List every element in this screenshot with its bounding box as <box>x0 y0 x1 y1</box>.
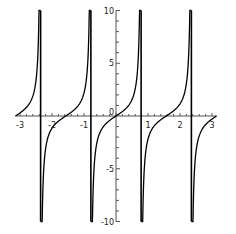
origin-label: 0 <box>109 108 114 117</box>
tan-branch <box>15 11 40 117</box>
y-tick-label: 10 <box>104 7 114 16</box>
x-tick-label: 2 <box>177 121 182 130</box>
tan-chart: -3-2-11230-10-5510 <box>0 0 236 234</box>
x-tick-label: 1 <box>145 121 150 130</box>
y-tick-label: -5 <box>106 165 114 174</box>
y-tick-label: 5 <box>109 59 114 68</box>
x-tick-label: -2 <box>48 121 56 130</box>
tan-branch <box>191 116 216 222</box>
x-tick-label: -1 <box>80 121 88 130</box>
y-tick-label: -10 <box>101 218 114 227</box>
x-tick-label: -3 <box>16 121 24 130</box>
x-tick-label: 3 <box>209 121 214 130</box>
